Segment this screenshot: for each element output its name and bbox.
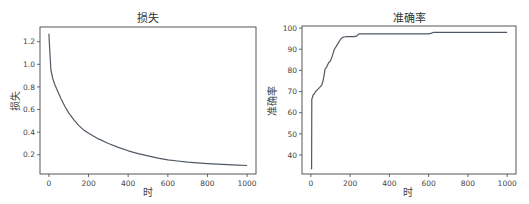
y-tick-label: 100 — [283, 24, 298, 33]
accuracy-chart: 准确率 时 准确率 020040060080010004050607080901… — [265, 0, 529, 204]
loss-chart-canvas: 损失 时 损失 020040060080010000.20.40.60.81.0… — [0, 0, 265, 204]
loss-x-axis-label: 时 — [143, 187, 153, 198]
x-tick-label: 600 — [421, 179, 436, 188]
loss-plot-frame — [40, 27, 256, 174]
y-tick-label: 0.4 — [23, 128, 35, 137]
x-tick-label: 800 — [200, 179, 215, 188]
accuracy-x-axis-label: 时 — [403, 187, 413, 198]
loss-chart-title: 损失 — [137, 11, 159, 25]
accuracy-line — [311, 32, 507, 168]
loss-axis-ticks: 020040060080010000.20.40.60.81.01.2 — [23, 37, 257, 188]
loss-chart: 损失 时 损失 020040060080010000.20.40.60.81.0… — [0, 0, 265, 204]
x-tick-label: 800 — [461, 179, 476, 188]
accuracy-chart-canvas: 准确率 时 准确率 020040060080010004050607080901… — [265, 0, 529, 204]
y-tick-label: 1.0 — [23, 60, 35, 69]
x-tick-label: 600 — [161, 179, 176, 188]
y-tick-label: 80 — [287, 66, 297, 75]
y-tick-label: 0.2 — [23, 150, 35, 159]
x-tick-label: 1000 — [238, 179, 257, 188]
y-tick-label: 0.6 — [23, 105, 35, 114]
x-tick-label: 1000 — [498, 179, 517, 188]
x-tick-label: 0 — [47, 179, 52, 188]
loss-line — [49, 34, 247, 166]
accuracy-axis-ticks: 02004006008001000405060708090100 — [283, 24, 517, 188]
x-tick-label: 200 — [343, 179, 358, 188]
y-tick-label: 40 — [287, 151, 297, 160]
y-tick-label: 60 — [287, 108, 297, 117]
x-tick-label: 0 — [308, 179, 313, 188]
y-tick-label: 50 — [287, 130, 297, 139]
y-tick-label: 0.8 — [23, 83, 35, 92]
y-tick-label: 1.2 — [23, 37, 35, 46]
y-tick-label: 70 — [287, 87, 297, 96]
accuracy-y-axis-label: 准确率 — [266, 86, 278, 116]
x-tick-label: 200 — [81, 179, 96, 188]
accuracy-plot-frame — [302, 26, 516, 174]
x-tick-label: 400 — [382, 179, 397, 188]
y-tick-label: 90 — [287, 45, 297, 54]
x-tick-label: 400 — [121, 179, 136, 188]
accuracy-chart-title: 准确率 — [393, 11, 426, 25]
loss-y-axis-label: 损失 — [9, 91, 21, 111]
